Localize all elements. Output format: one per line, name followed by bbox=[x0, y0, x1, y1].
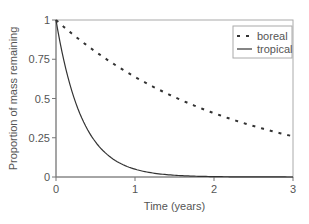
y-tick-label: 1 bbox=[44, 14, 50, 26]
y-tick-label: 0.5 bbox=[35, 93, 50, 105]
y-axis-label: Proportion of mass remaining bbox=[7, 27, 19, 171]
x-tick-label: 0 bbox=[53, 183, 59, 195]
y-tick-label: 0.25 bbox=[29, 132, 50, 144]
x-tick-label: 1 bbox=[132, 183, 138, 195]
y-tick-label: 0 bbox=[44, 171, 50, 183]
x-axis-label: Time (years) bbox=[144, 200, 205, 212]
y-tick-label: 0.75 bbox=[29, 53, 50, 65]
legend-label-tropical: tropical bbox=[257, 43, 292, 55]
chart: 00.250.50.7510123Time (years)Proportion … bbox=[0, 0, 309, 224]
x-tick-label: 2 bbox=[211, 183, 217, 195]
legend-label-boreal: boreal bbox=[257, 30, 288, 42]
x-tick-label: 3 bbox=[290, 183, 296, 195]
